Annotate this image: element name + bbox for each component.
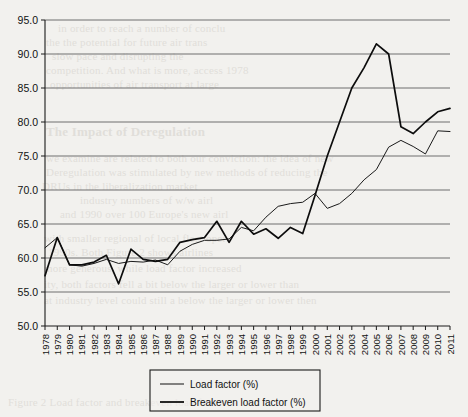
- x-tick-label: 2005: [371, 334, 382, 355]
- y-tick-label: 55.0: [18, 286, 39, 298]
- x-tick-label: 2009: [420, 334, 431, 355]
- x-tick-label: 1992: [211, 334, 222, 355]
- x-tick-label: 1985: [126, 334, 137, 355]
- x-tick-label: 1987: [150, 334, 161, 355]
- legend-label: Load factor (%): [190, 379, 258, 390]
- y-axis-ticks: [41, 20, 45, 326]
- x-tick-label: 1996: [261, 334, 272, 355]
- y-tick-label: 80.0: [18, 116, 39, 128]
- x-tick-label: 2002: [334, 334, 345, 355]
- x-tick-label: 1997: [273, 334, 284, 355]
- x-tick-label: 1979: [52, 334, 63, 355]
- x-tick-label: 2003: [346, 334, 357, 355]
- load-factor-line-chart: 50.055.060.065.070.075.080.085.090.095.0…: [0, 0, 468, 417]
- x-tick-label: 1984: [113, 334, 124, 355]
- x-tick-label: 2007: [396, 334, 407, 355]
- x-tick-label: 1988: [162, 334, 173, 355]
- series-line-breakeven-load-factor: [45, 44, 450, 284]
- x-tick-label: 1990: [187, 334, 198, 355]
- y-tick-label: 90.0: [18, 48, 39, 60]
- x-tick-label: 1998: [285, 334, 296, 355]
- x-tick-label: 2010: [432, 334, 443, 355]
- y-tick-label: 75.0: [18, 150, 39, 162]
- x-tick-label: 1978: [40, 334, 51, 355]
- x-tick-label: 1993: [224, 334, 235, 355]
- x-tick-label: 2006: [383, 334, 394, 355]
- y-tick-label: 60.0: [18, 252, 39, 264]
- x-tick-label: 1981: [76, 334, 87, 355]
- x-tick-label: 1980: [64, 334, 75, 355]
- x-tick-label: 1994: [236, 334, 247, 355]
- x-tick-label: 2008: [408, 334, 419, 355]
- y-tick-label: 50.0: [18, 320, 39, 332]
- series-line-load-factor: [45, 131, 450, 266]
- x-tick-label: 1982: [89, 334, 100, 355]
- x-tick-label: 1983: [101, 334, 112, 355]
- x-tick-label: 2000: [310, 334, 321, 355]
- x-tick-label: 1999: [297, 334, 308, 355]
- y-tick-label: 65.0: [18, 218, 39, 230]
- y-tick-label: 85.0: [18, 82, 39, 94]
- x-tick-label: 1991: [199, 334, 210, 355]
- x-tick-label: 2004: [359, 334, 370, 355]
- x-tick-label: 1986: [138, 334, 149, 355]
- x-tick-label: 1989: [175, 334, 186, 355]
- y-tick-label: 70.0: [18, 184, 39, 196]
- x-tick-label: 2001: [322, 334, 333, 355]
- x-axis-ticks: [45, 326, 450, 330]
- y-tick-label: 95.0: [18, 14, 39, 26]
- chart-canvas: 50.055.060.065.070.075.080.085.090.095.0…: [0, 0, 468, 417]
- x-tick-label: 1995: [248, 334, 259, 355]
- x-tick-label: 2011: [445, 334, 456, 354]
- x-axis-tick-labels: 1978197919801981198219831984198519861987…: [40, 334, 456, 355]
- chart-legend: Load factor (%)Breakeven load factor (%): [150, 370, 320, 411]
- legend-label: Breakeven load factor (%): [190, 397, 306, 408]
- y-axis-tick-labels: 50.055.060.065.070.075.080.085.090.095.0: [18, 14, 39, 332]
